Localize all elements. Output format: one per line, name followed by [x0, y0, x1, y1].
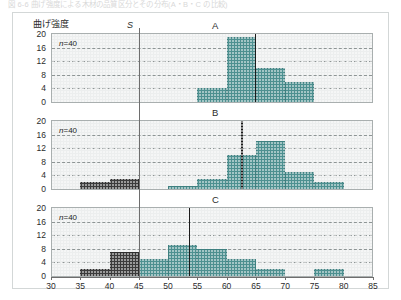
histogram-panel-b [51, 120, 373, 190]
x-axis-tick-label: 75 [305, 281, 323, 291]
panel-letter-c: C [212, 194, 219, 205]
figure-caption-top: 図 6-6 曲げ強度による木材の品質区分とその分布(A・B・C の比較) [8, 0, 393, 9]
histogram-bar [285, 172, 314, 189]
histogram-bar [80, 269, 109, 276]
x-axis-tick-label: 30 [42, 281, 60, 291]
y-axis-tick-label: 8 [30, 158, 46, 166]
x-axis-tick-label: 85 [364, 281, 382, 291]
histogram-panel-c [51, 207, 373, 277]
figure-root: 図 6-6 曲げ強度による木材の品質区分とその分布(A・B・C の比較) 曲げ強… [0, 0, 401, 300]
y-axis-tick-label: 20 [30, 30, 46, 38]
y-axis-tick-label: 12 [30, 231, 46, 239]
spec-limit-label: S [127, 20, 133, 30]
y-axis-tick-label: 4 [30, 84, 46, 92]
histogram-bar [110, 252, 139, 276]
x-axis-tick-mark [373, 277, 374, 280]
gridline [52, 48, 372, 49]
histogram-bar [197, 249, 226, 276]
histogram-bar [168, 245, 197, 276]
histogram-bar [285, 82, 314, 102]
x-axis-tick-label: 35 [71, 281, 89, 291]
histogram-bar [314, 182, 343, 189]
x-axis-tick-label: 45 [130, 281, 148, 291]
mean-line [241, 121, 243, 189]
y-axis-tick-label: 12 [30, 57, 46, 65]
histogram-bar [227, 37, 256, 102]
histogram-bar [197, 179, 226, 189]
sample-size-label: n=40 [59, 126, 77, 135]
x-axis-tick-label: 50 [159, 281, 177, 291]
sample-size-label: n=40 [59, 39, 77, 48]
gridline [52, 135, 372, 136]
x-axis-tick-label: 80 [335, 281, 353, 291]
histogram-bar [168, 186, 197, 189]
histogram-bar [139, 259, 168, 276]
panel-letter-a: A [212, 20, 218, 31]
sample-size-label: n=40 [59, 213, 77, 222]
y-axis-tick-label: 0 [30, 98, 46, 106]
histogram-bar [314, 269, 343, 276]
gridline [52, 175, 372, 176]
y-axis-tick-label: 4 [30, 258, 46, 266]
gridline [52, 235, 372, 236]
y-axis-tick-label: 16 [30, 131, 46, 139]
x-axis-tick-label: 65 [247, 281, 265, 291]
y-axis-tick-label: 12 [30, 144, 46, 152]
y-axis-tick-label: 16 [30, 218, 46, 226]
y-axis-tick-label: 0 [30, 185, 46, 193]
mean-line [189, 208, 191, 276]
histogram-bar [110, 179, 139, 189]
x-axis-line [51, 277, 373, 278]
histogram-bar [256, 68, 285, 102]
y-axis-tick-label: 20 [30, 204, 46, 212]
x-axis-tick-label: 70 [276, 281, 294, 291]
x-axis-tick-label: 55 [188, 281, 206, 291]
y-axis-tick-label: 20 [30, 117, 46, 125]
y-axis-tick-label: 8 [30, 245, 46, 253]
histogram-bar [227, 259, 256, 276]
gridline [52, 148, 372, 149]
gridline [52, 75, 372, 76]
x-axis-tick-label: 40 [101, 281, 119, 291]
histogram-bar [197, 88, 226, 102]
y-axis-tick-label: 0 [30, 272, 46, 280]
gridline [52, 61, 372, 62]
histogram-bar [256, 141, 285, 189]
panel-letter-b: B [212, 107, 218, 118]
mean-line [255, 34, 257, 102]
histogram-bar [256, 269, 285, 276]
spec-limit-line [139, 28, 140, 277]
y-axis-tick-label: 16 [30, 44, 46, 52]
gridline [52, 162, 372, 163]
gridline [52, 222, 372, 223]
x-axis-tick-label: 60 [218, 281, 236, 291]
y-axis-tick-label: 8 [30, 71, 46, 79]
histogram-panel-a [51, 33, 373, 103]
y-axis-tick-label: 4 [30, 171, 46, 179]
histogram-bar [80, 182, 109, 189]
